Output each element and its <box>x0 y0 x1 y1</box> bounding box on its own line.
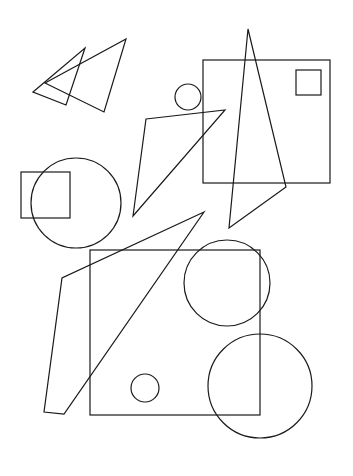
canvas-background <box>0 0 353 476</box>
geometric-shape-drawing <box>0 0 353 476</box>
shape-canvas-root <box>0 0 353 476</box>
